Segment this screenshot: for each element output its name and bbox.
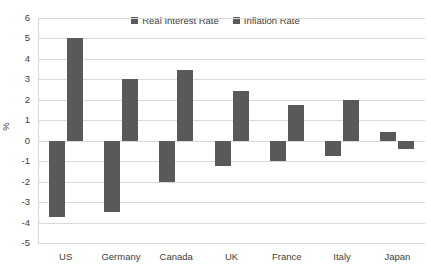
bar <box>233 91 249 141</box>
gridline-6 <box>38 18 425 19</box>
bar <box>159 141 175 182</box>
gridline-0 <box>38 141 425 142</box>
gridline-4 <box>38 59 425 60</box>
bar <box>325 141 341 156</box>
y-tick-label: -1 <box>4 156 30 166</box>
gridline--3 <box>38 202 425 203</box>
x-tick-label: Italy <box>314 252 369 262</box>
y-tick-label: 4 <box>4 54 30 64</box>
bar <box>270 141 286 161</box>
y-tick-label: 3 <box>4 74 30 84</box>
x-tick-label: Japan <box>370 252 425 262</box>
y-tick-label: 2 <box>4 95 30 105</box>
y-tick-label: -3 <box>4 197 30 207</box>
x-tick-label: UK <box>204 252 259 262</box>
bar-chart: Real Interest RateInflation Rate % 65432… <box>0 0 431 275</box>
x-tick-label: France <box>259 252 314 262</box>
x-tick-label: US <box>38 252 93 262</box>
plot-area <box>38 18 425 243</box>
gridline--2 <box>38 182 425 183</box>
y-tick-label: 1 <box>4 115 30 125</box>
y-tick-label: -4 <box>4 218 30 228</box>
gridline-2 <box>38 100 425 101</box>
bar <box>343 100 359 141</box>
bar <box>398 141 414 149</box>
bar <box>177 70 193 141</box>
y-tick-label: 6 <box>4 13 30 23</box>
bar <box>215 141 231 167</box>
y-tick-label: -2 <box>4 177 30 187</box>
gridline--1 <box>38 161 425 162</box>
bar <box>49 141 65 218</box>
gridline--5 <box>38 243 425 244</box>
bar <box>104 141 120 213</box>
bar <box>288 105 304 141</box>
gridline-5 <box>38 38 425 39</box>
y-tick-label: 5 <box>4 33 30 43</box>
x-tick-label: Germany <box>93 252 148 262</box>
gridline--4 <box>38 223 425 224</box>
bar <box>122 79 138 140</box>
gridline-3 <box>38 79 425 80</box>
bar <box>380 132 396 141</box>
gridline-1 <box>38 120 425 121</box>
y-tick-label: -5 <box>4 238 30 248</box>
y-tick-label: 0 <box>4 136 30 146</box>
bar <box>67 38 83 140</box>
x-tick-label: Canada <box>149 252 204 262</box>
